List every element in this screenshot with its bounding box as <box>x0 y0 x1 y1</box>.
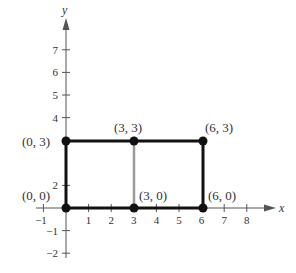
x-axis-label: x <box>278 201 285 215</box>
label-p30: (3, 0) <box>139 188 167 203</box>
label-p00: (0, 0) <box>22 188 50 203</box>
point-6-3 <box>199 137 208 146</box>
x-axis-arrow-icon <box>264 205 276 212</box>
svg-text:−1: −1 <box>46 225 58 237</box>
y-axis-label: y <box>61 3 68 17</box>
label-p33: (3, 3) <box>114 120 142 135</box>
svg-text:8: 8 <box>244 214 250 226</box>
label-p03: (0, 3) <box>22 134 50 149</box>
svg-text:−1: −1 <box>35 214 47 226</box>
svg-text:4: 4 <box>53 112 59 124</box>
svg-text:7: 7 <box>221 214 227 226</box>
svg-text:2: 2 <box>108 214 114 226</box>
point-6-0 <box>199 204 208 213</box>
y-tick-labels: 7 6 5 4 2 −1 −2 <box>46 44 58 259</box>
svg-text:−2: −2 <box>46 247 58 259</box>
x-tick-labels: −1 1 2 3 4 5 6 7 8 <box>35 214 250 226</box>
point-0-0 <box>62 204 71 213</box>
svg-text:6: 6 <box>53 66 59 78</box>
y-axis-arrow-icon <box>63 18 70 30</box>
svg-text:5: 5 <box>53 89 59 101</box>
point-0-3 <box>62 137 71 146</box>
point-3-3 <box>130 137 139 146</box>
svg-text:7: 7 <box>53 44 59 56</box>
point-3-0 <box>130 204 139 213</box>
svg-text:1: 1 <box>86 214 92 226</box>
svg-text:4: 4 <box>154 214 160 226</box>
label-p63: (6, 3) <box>205 120 233 135</box>
svg-text:6: 6 <box>199 214 205 226</box>
svg-text:5: 5 <box>176 214 182 226</box>
label-p60: (6, 0) <box>208 188 236 203</box>
rectangle-diagram: x y −1 1 2 3 4 5 6 7 8 7 6 5 4 2 <box>0 0 296 273</box>
svg-text:2: 2 <box>53 179 59 191</box>
svg-text:3: 3 <box>131 214 137 226</box>
